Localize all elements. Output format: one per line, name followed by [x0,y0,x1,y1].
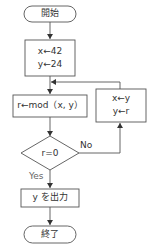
yes-label: Yes [29,171,44,182]
output-label: y を出力 [21,192,79,203]
swap-line-1: x←y [96,93,146,104]
mod-label: r←mod（x, y） [13,100,87,111]
init-line-1: x←42 [25,46,75,57]
start-label: 開始 [24,8,76,19]
no-label: No [80,140,92,151]
swap-line-2: y←r [96,106,146,117]
init-line-2: y←24 [25,59,75,70]
end-label: 終了 [24,229,76,240]
loop-back-connector [51,82,120,89]
decision-label: r=0 [21,148,79,159]
flowchart-canvas [0,0,154,249]
